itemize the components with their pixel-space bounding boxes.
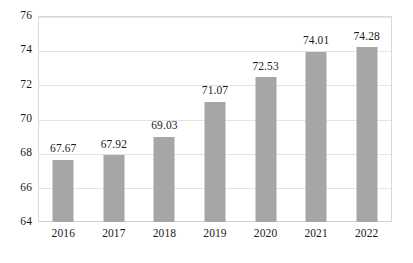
x-axis-tick-2019: 2019 <box>203 228 226 240</box>
bar-slot-2018: 69.03 <box>139 16 190 222</box>
bar-2022[interactable] <box>356 47 377 222</box>
bar-chart: 76 74 72 70 68 66 64 67.67 67.92 69.03 7… <box>0 0 413 263</box>
y-axis-tick-label: 68 <box>20 146 32 158</box>
y-axis-tick-5: 66 <box>6 182 32 194</box>
bar-2021[interactable] <box>306 52 327 222</box>
bar-value-label-2016: 67.67 <box>50 143 76 155</box>
bar-slot-2022: 74.28 <box>341 16 392 222</box>
x-axis-tick-2021: 2021 <box>304 228 327 240</box>
bar-2019[interactable] <box>204 102 225 222</box>
bar-value-label-2021: 74.01 <box>303 35 329 47</box>
bar-slot-2020: 72.53 <box>240 16 291 222</box>
y-axis-tick-label: 70 <box>20 112 32 124</box>
bar-slot-2021: 74.01 <box>291 16 342 222</box>
bars-layer: 67.67 67.92 69.03 71.07 72.53 74.01 74.2… <box>38 16 392 222</box>
bar-2020[interactable] <box>255 77 276 222</box>
x-axis-tick-2018: 2018 <box>153 228 176 240</box>
y-axis-tick-label: 76 <box>20 9 32 21</box>
y-axis-tick-0: 76 <box>6 10 32 22</box>
bar-value-label-2017: 67.92 <box>101 139 127 151</box>
y-axis-tick-label: 64 <box>20 215 32 227</box>
x-axis-tick-2016: 2016 <box>52 228 75 240</box>
x-axis-layer: 2016 2017 2018 2019 2020 2021 2022 <box>38 228 392 248</box>
bar-value-label-2020: 72.53 <box>252 61 278 73</box>
bar-slot-2016: 67.67 <box>38 16 89 222</box>
bar-2017[interactable] <box>103 155 124 222</box>
x-axis-tick-2020: 2020 <box>254 228 277 240</box>
y-axis-tick-label: 74 <box>20 43 32 55</box>
y-axis-tick-3: 70 <box>6 113 32 125</box>
y-axis-tick-label: 66 <box>20 181 32 193</box>
bar-slot-2017: 67.92 <box>89 16 140 222</box>
bar-slot-2019: 71.07 <box>190 16 241 222</box>
bar-value-label-2018: 69.03 <box>151 120 177 132</box>
bar-2016[interactable] <box>53 160 74 222</box>
bar-value-label-2022: 74.28 <box>354 31 380 43</box>
x-axis-tick-2022: 2022 <box>355 228 378 240</box>
x-axis-tick-2017: 2017 <box>102 228 125 240</box>
y-axis-tick-2: 72 <box>6 79 32 91</box>
y-axis-tick-label: 72 <box>20 78 32 90</box>
bar-value-label-2019: 71.07 <box>202 85 228 97</box>
y-axis-tick-4: 68 <box>6 147 32 159</box>
y-axis-tick-6: 64 <box>6 216 32 228</box>
y-axis-tick-1: 74 <box>6 44 32 56</box>
bar-2018[interactable] <box>154 137 175 223</box>
